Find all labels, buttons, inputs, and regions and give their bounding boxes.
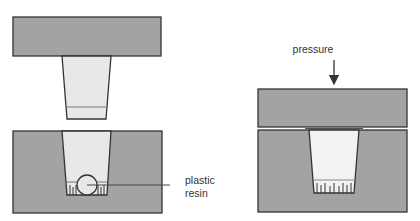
pressure-label: pressure — [293, 43, 334, 55]
top-platen — [258, 89, 407, 127]
top-platen — [13, 17, 161, 56]
closed-mold-panel: pressure — [258, 43, 407, 212]
resin-label-line2: resin — [185, 187, 208, 199]
resin-label-line1: plastic — [185, 174, 215, 186]
compression-molding-diagram: plastic resin pressure — [0, 0, 420, 221]
open-mold-panel: plastic resin — [13, 17, 215, 213]
plunger — [62, 56, 111, 119]
